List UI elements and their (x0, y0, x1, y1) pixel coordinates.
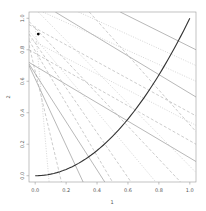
y-tick-label: 0.8 (19, 46, 25, 54)
x-tick-label: 0.2 (62, 187, 70, 193)
y-axis-label: 2 (5, 95, 11, 98)
x-tick-label: 0.8 (155, 187, 163, 193)
x-axis-label: 1 (110, 199, 113, 205)
level-line (120, 12, 196, 50)
y-tick-label: 0.2 (19, 140, 25, 148)
level-line (29, 40, 113, 182)
level-line (29, 66, 83, 182)
y-tick-label: 0.4 (19, 109, 25, 117)
level-line (29, 50, 196, 144)
level-line (29, 21, 181, 182)
x-tick-label: 0.6 (124, 187, 132, 193)
point-layer (37, 33, 40, 36)
y-tick-label: 1.0 (19, 14, 25, 22)
level-line (55, 12, 196, 97)
chart: 0.00.20.40.60.81.0 0.00.20.40.60.81.0 1 … (0, 0, 206, 211)
x-tick-label: 0.0 (31, 187, 39, 193)
level-line (29, 62, 196, 161)
x-tick-label: 0.4 (93, 187, 101, 193)
x-tick-label: 1.0 (186, 187, 194, 193)
level-line (29, 64, 105, 182)
x-axis: 0.00.20.40.60.81.0 (31, 182, 194, 193)
y-tick-label: 0.6 (19, 77, 25, 85)
y-axis: 0.00.20.40.60.81.0 (19, 14, 29, 179)
level-lines (29, 12, 196, 182)
level-line (89, 12, 196, 132)
level-line (29, 34, 131, 182)
data-point (37, 33, 40, 36)
level-line (38, 12, 196, 173)
y-tick-label: 0.0 (19, 172, 25, 180)
